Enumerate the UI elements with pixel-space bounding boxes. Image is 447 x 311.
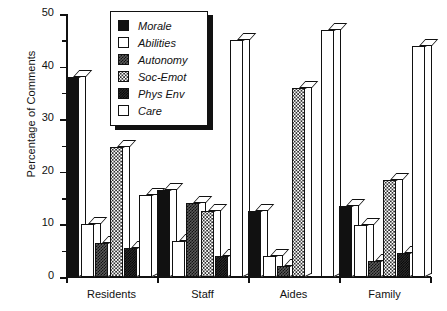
bar-family-phys-env bbox=[397, 253, 410, 277]
bar-staff-care bbox=[230, 40, 243, 277]
bar-face bbox=[95, 243, 108, 277]
y-tick-minor-45 bbox=[62, 40, 66, 42]
bar-face bbox=[81, 224, 94, 277]
bar-residents-abilities bbox=[81, 224, 94, 277]
bar-face bbox=[172, 241, 185, 277]
y-tick-label-30: 30 bbox=[20, 111, 54, 123]
bar-face bbox=[230, 40, 243, 277]
legend-swatch-icon bbox=[118, 71, 129, 82]
bar-aides-abilities bbox=[263, 256, 276, 277]
legend-swatch-icon bbox=[118, 37, 129, 48]
legend-label: Care bbox=[138, 105, 162, 117]
x-tick-2 bbox=[248, 277, 250, 283]
bar-face bbox=[66, 77, 79, 277]
legend-swatch-icon bbox=[118, 88, 129, 99]
bar-side bbox=[425, 42, 432, 277]
x-tick-1 bbox=[157, 277, 159, 283]
bar-residents-soc-emot bbox=[110, 147, 123, 277]
bar-side bbox=[305, 84, 312, 277]
bar-aides-morale bbox=[248, 211, 261, 277]
bar-family-soc-emot bbox=[383, 180, 396, 277]
x-tick-0 bbox=[66, 277, 68, 283]
figure-caption bbox=[4, 300, 444, 311]
bar-aides-autonomy bbox=[277, 266, 290, 277]
figure: Percentage of Comments 01020304050 Resid… bbox=[0, 0, 447, 311]
legend-label: Phys Env bbox=[138, 88, 184, 100]
y-tick-label-40: 40 bbox=[20, 59, 54, 71]
x-tick-3 bbox=[339, 277, 341, 283]
legend-item-care: Care bbox=[118, 102, 207, 119]
bar-family-autonomy bbox=[368, 261, 381, 277]
legend-swatch-icon bbox=[118, 20, 129, 31]
bar-family-abilities bbox=[354, 225, 367, 277]
bar-face bbox=[139, 195, 152, 277]
legend-item-autonomy: Autonomy bbox=[118, 51, 207, 68]
bar-face bbox=[321, 30, 334, 277]
legend-label: Morale bbox=[138, 20, 172, 32]
bar-staff-abilities bbox=[172, 241, 185, 277]
bar-staff-phys-env bbox=[215, 256, 228, 277]
bar-face bbox=[368, 261, 381, 277]
legend-label: Abilities bbox=[138, 37, 176, 49]
bar-face bbox=[383, 180, 396, 277]
legend-label: Autonomy bbox=[138, 54, 188, 66]
legend: MoraleAbilitiesAutonomySoc-EmotPhys EnvC… bbox=[110, 11, 208, 126]
bar-residents-phys-env bbox=[124, 248, 137, 277]
bar-family-morale bbox=[339, 206, 352, 277]
legend-item-morale: Morale bbox=[118, 17, 207, 34]
bar-staff-soc-emot bbox=[201, 211, 214, 277]
bar-face bbox=[124, 248, 137, 277]
bar-staff-morale bbox=[157, 190, 170, 277]
bar-aides-soc-emot bbox=[292, 88, 305, 277]
bar-face bbox=[354, 225, 367, 277]
bar-residents-care bbox=[139, 195, 152, 277]
bar-face bbox=[157, 190, 170, 277]
y-tick-50 bbox=[60, 14, 66, 16]
y-tick-label-20: 20 bbox=[20, 164, 54, 176]
legend-item-abilities: Abilities bbox=[118, 34, 207, 51]
bar-face bbox=[248, 211, 261, 277]
y-tick-label-0: 0 bbox=[20, 269, 54, 281]
bar-face bbox=[186, 203, 199, 277]
legend-item-soc-emot: Soc-Emot bbox=[118, 68, 207, 85]
y-tick-40 bbox=[60, 67, 66, 69]
bar-residents-morale bbox=[66, 77, 79, 277]
y-tick-label-10: 10 bbox=[20, 216, 54, 228]
bar-face bbox=[412, 46, 425, 277]
legend-label: Soc-Emot bbox=[138, 71, 186, 83]
bar-family-care bbox=[412, 46, 425, 277]
bar-face bbox=[397, 253, 410, 277]
bar-face bbox=[263, 256, 276, 277]
legend-item-phys-env: Phys Env bbox=[118, 85, 207, 102]
legend-swatch-icon bbox=[118, 54, 129, 65]
bar-face bbox=[292, 88, 305, 277]
bar-face bbox=[277, 266, 290, 277]
x-category-family: Family bbox=[330, 288, 440, 300]
x-tick-4 bbox=[430, 277, 432, 283]
bar-staff-autonomy bbox=[186, 203, 199, 277]
legend-swatch-icon bbox=[118, 105, 129, 116]
bar-residents-autonomy bbox=[95, 243, 108, 277]
bar-face bbox=[215, 256, 228, 277]
y-tick-label-50: 50 bbox=[20, 6, 54, 18]
bar-face bbox=[339, 206, 352, 277]
bar-face bbox=[201, 211, 214, 277]
bar-face bbox=[110, 147, 123, 277]
bar-aides-care bbox=[321, 30, 334, 277]
